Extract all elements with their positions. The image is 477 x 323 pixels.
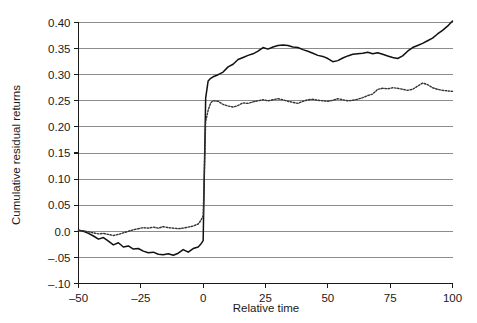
chart-figure: –.10–.050.00.050.100.150.200.250.300.350… xyxy=(0,0,477,323)
y-tick-label: 0.30 xyxy=(48,69,70,81)
y-tick-label: –.05 xyxy=(48,252,70,264)
y-tick-label: 0.05 xyxy=(48,199,70,211)
y-tick-label: 0.25 xyxy=(48,95,70,107)
y-tick-label: 0.20 xyxy=(48,121,70,133)
y-tick-label: –.10 xyxy=(48,278,70,290)
x-tick-label: –25 xyxy=(131,292,150,304)
y-tick-label: 0.15 xyxy=(48,147,70,159)
y-tick-label: 0.35 xyxy=(48,43,70,55)
y-tick-label: 0.10 xyxy=(48,173,70,185)
x-axis-title: Relative time xyxy=(233,302,299,314)
x-tick-label: 0 xyxy=(200,292,206,304)
y-tick-label: 0.0 xyxy=(55,226,71,238)
x-tick-label: 50 xyxy=(321,292,334,304)
cumulative-residual-returns-chart: –.10–.050.00.050.100.150.200.250.300.350… xyxy=(0,0,477,323)
y-axis-title: Cumulative residual returns xyxy=(10,85,22,225)
x-tick-label: 75 xyxy=(384,292,397,304)
x-tick-label: –50 xyxy=(69,292,88,304)
x-tick-label: 100 xyxy=(443,292,462,304)
y-tick-label: 0.40 xyxy=(48,17,70,29)
